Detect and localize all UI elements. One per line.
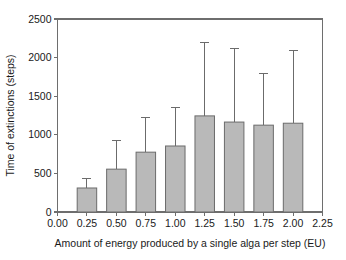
plot-frame: [58, 19, 323, 212]
bar: [136, 152, 156, 212]
x-tick-label: 2.25: [312, 217, 333, 229]
bar: [195, 116, 215, 212]
y-tick-label: 0: [46, 206, 52, 218]
x-tick-label: 1.00: [165, 217, 186, 229]
bar: [77, 188, 97, 212]
x-tick-label: 1.50: [224, 217, 245, 229]
x-axis-title: Amount of energy produced by a single al…: [55, 237, 326, 249]
y-tick-label: 500: [34, 167, 52, 179]
bar: [224, 122, 244, 212]
bar: [283, 123, 303, 212]
x-tick-label: 0.50: [106, 217, 127, 229]
y-tick-label: 1500: [28, 90, 52, 102]
x-tick-label: 1.25: [195, 217, 216, 229]
bar-chart: 050010001500200025000.000.250.500.751.00…: [0, 0, 346, 260]
x-tick-label: 1.75: [253, 217, 274, 229]
bar: [254, 125, 273, 212]
y-tick-label: 2000: [28, 51, 52, 63]
y-tick-label: 1000: [28, 128, 52, 140]
y-axis-title: Time of extinctions (steps): [4, 54, 16, 176]
bar: [166, 146, 186, 212]
y-tick-label: 2500: [28, 13, 52, 25]
x-tick-label: 0.00: [47, 217, 68, 229]
bar: [107, 169, 127, 212]
x-tick-label: 2.00: [283, 217, 304, 229]
x-tick-label: 0.25: [77, 217, 98, 229]
x-tick-label: 0.75: [136, 217, 157, 229]
chart-figure: 050010001500200025000.000.250.500.751.00…: [0, 0, 346, 260]
